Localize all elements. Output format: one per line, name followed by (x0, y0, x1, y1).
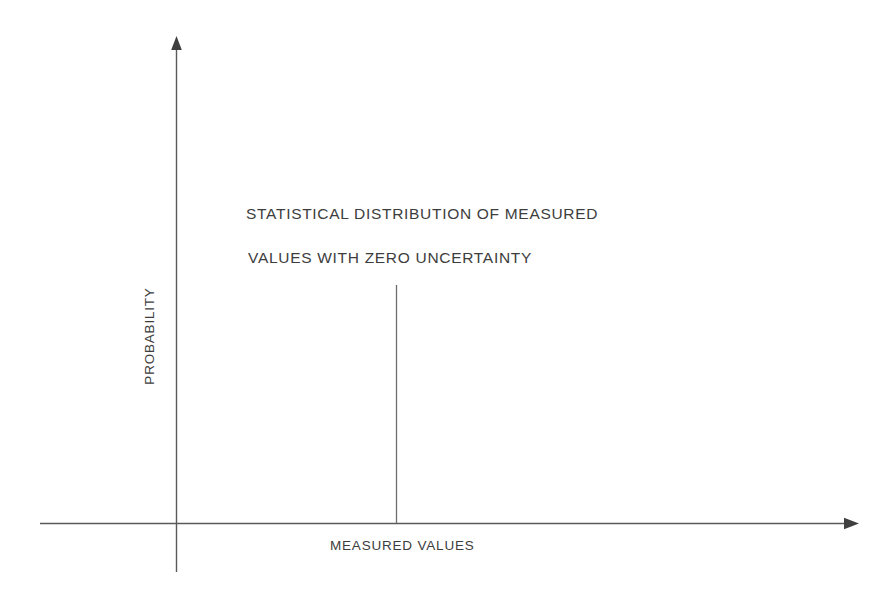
chart-title: STATISTICAL DISTRIBUTION OF MEASURED VAL… (226, 181, 598, 313)
x-axis-label: MEASURED VALUES (330, 538, 475, 553)
y-axis-arrowhead (171, 36, 182, 50)
chart-title-line-1: STATISTICAL DISTRIBUTION OF MEASURED (246, 205, 598, 222)
x-axis-arrowhead (844, 518, 859, 529)
chart-title-line-2: VALUES WITH ZERO UNCERTAINTY (226, 247, 598, 269)
y-axis-label: PROBABILITY (142, 287, 157, 384)
chart-figure: STATISTICAL DISTRIBUTION OF MEASURED VAL… (0, 0, 874, 594)
